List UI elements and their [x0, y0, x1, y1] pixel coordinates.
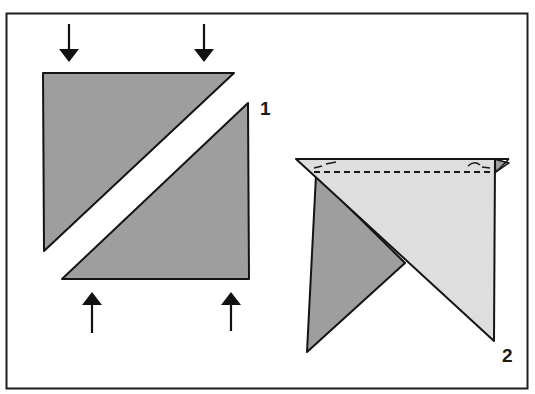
step-2-group	[296, 159, 509, 352]
arrow-down-left-icon	[59, 24, 79, 62]
arrow-down-right-icon	[194, 24, 214, 62]
diagram-canvas: 1 2	[0, 0, 535, 394]
arrow-up-left-icon	[82, 292, 102, 333]
arrow-up-right-icon	[221, 292, 241, 331]
quilt-piecing-diagram	[0, 0, 535, 394]
step-2-label: 2	[502, 346, 513, 365]
step-1-group	[43, 24, 249, 333]
step-1-label: 1	[260, 99, 271, 118]
